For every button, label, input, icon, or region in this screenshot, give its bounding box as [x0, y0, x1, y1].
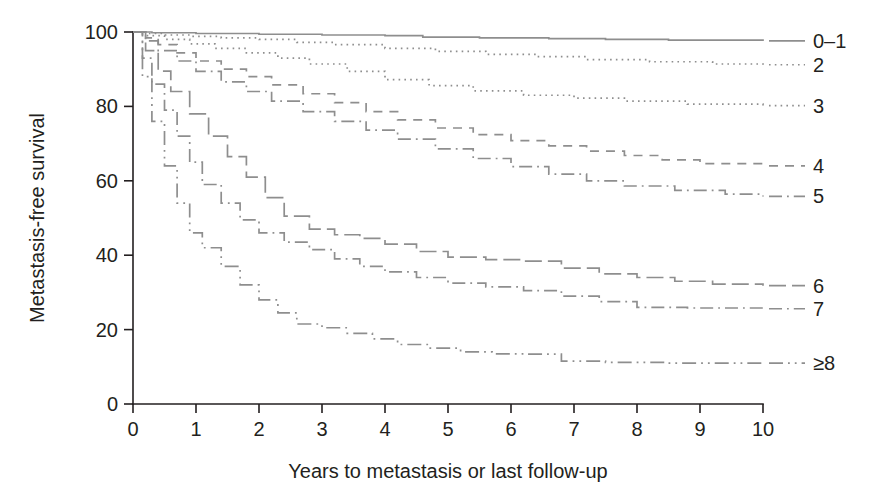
legend-label-6: 6 [813, 275, 824, 297]
survival-curve-8 [133, 32, 763, 363]
survival-curve-1 [133, 32, 763, 41]
legend-label-2: 2 [813, 54, 824, 76]
legend-label-1: 0–1 [813, 30, 846, 52]
legend-label-3: 3 [813, 95, 824, 117]
kaplan-meier-chart: 020406080100 012345678910 Metastasis-fre… [0, 0, 871, 498]
x-tick-label: 6 [505, 418, 516, 440]
y-tick-label: 80 [96, 95, 118, 117]
x-tick-label: 4 [379, 418, 390, 440]
x-tick-label: 9 [694, 418, 705, 440]
x-tick-label: 5 [442, 418, 453, 440]
x-tick-label: 1 [190, 418, 201, 440]
x-axis-title: Years to metastasis or last follow-up [288, 460, 607, 482]
y-axis-ticks: 020406080100 [85, 21, 133, 415]
y-tick-label: 20 [96, 319, 118, 341]
y-axis-title: Metastasis-free survival [26, 113, 48, 323]
legend-label-4: 4 [813, 155, 824, 177]
x-tick-label: 8 [631, 418, 642, 440]
legend-label-5: 5 [813, 185, 824, 207]
survival-curve-7 [133, 32, 763, 309]
survival-curve-6 [133, 32, 763, 286]
survival-curves [133, 32, 763, 363]
survival-curve-5 [133, 32, 763, 196]
x-tick-label: 10 [752, 418, 774, 440]
x-tick-label: 3 [316, 418, 327, 440]
x-axis-ticks: 012345678910 [127, 404, 774, 440]
y-tick-label: 40 [96, 244, 118, 266]
legend-label-7: 7 [813, 298, 824, 320]
legend-label-8: ≥8 [813, 352, 835, 374]
y-tick-label: 100 [85, 21, 118, 43]
x-tick-label: 7 [568, 418, 579, 440]
y-tick-label: 60 [96, 170, 118, 192]
x-tick-label: 0 [127, 418, 138, 440]
legend: 0–1234567≥8 [769, 30, 846, 374]
x-tick-label: 2 [253, 418, 264, 440]
y-tick-label: 0 [107, 393, 118, 415]
